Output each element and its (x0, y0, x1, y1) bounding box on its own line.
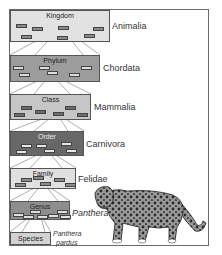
class-chip (21, 106, 32, 110)
order-chip (36, 144, 47, 148)
family-chip (54, 178, 65, 182)
leopard-illustration (93, 183, 209, 245)
class-title: Class (11, 96, 90, 103)
kingdom-chip (21, 35, 32, 39)
kingdom-chip (84, 34, 95, 38)
genus-chip (30, 210, 41, 214)
phylum-chip (39, 66, 50, 70)
class-taxon-label: Mammalia (94, 102, 136, 112)
genus-chip (48, 214, 59, 218)
order-chip (16, 150, 27, 154)
class-box: Class (10, 94, 91, 120)
genus-chip (23, 215, 34, 219)
phylum-chip (47, 71, 58, 75)
genus-chip (37, 215, 48, 219)
phylum-chip (81, 66, 92, 70)
family-box: Family (10, 168, 76, 189)
kingdom-chip (57, 36, 68, 40)
phylum-box: Phylum (10, 55, 100, 82)
order-title: Order (11, 133, 83, 140)
order-chip (61, 142, 72, 146)
order-chip (21, 144, 32, 148)
class-chip (77, 113, 88, 117)
class-chip (53, 112, 64, 116)
order-chip (44, 149, 55, 153)
species-title: Species (11, 235, 50, 242)
family-chip (21, 178, 32, 182)
kingdom-chip (16, 24, 27, 28)
genus-chip (60, 215, 71, 219)
kingdom-chip (32, 27, 43, 31)
family-chip (33, 176, 44, 180)
phylum-chip (19, 73, 30, 77)
kingdom-chip (93, 27, 104, 31)
family-chip (40, 182, 51, 186)
phylum-chip (69, 73, 80, 77)
genus-title: Genus (11, 203, 69, 210)
class-chip (65, 106, 76, 110)
genus-chip (57, 210, 68, 214)
species-taxon-label-line1: Panthera (53, 230, 81, 237)
species-taxon-label-line2: pardus (56, 239, 77, 246)
order-chip (66, 149, 77, 153)
kingdom-taxon-label: Animalia (112, 21, 147, 31)
kingdom-title: Kingdom (11, 12, 109, 19)
genus-box: Genus (10, 201, 70, 220)
phylum-chip (13, 66, 24, 70)
phylum-taxon-label: Chordata (103, 63, 140, 73)
family-chip (65, 183, 76, 187)
class-chip (35, 110, 46, 114)
phylum-title: Phylum (11, 57, 99, 64)
class-chip (14, 113, 25, 117)
order-taxon-label: Carnivora (86, 139, 125, 149)
order-box: Order (10, 131, 84, 156)
kingdom-box: Kingdom (10, 10, 110, 42)
species-box: Species (10, 232, 51, 245)
kingdom-chip (58, 26, 69, 30)
family-chip (15, 183, 26, 187)
